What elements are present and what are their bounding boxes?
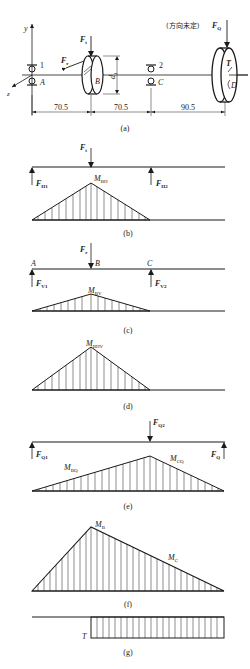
caption-e: (e) (124, 502, 133, 511)
caption-c: (c) (124, 326, 133, 335)
svg-text:MB: MB (94, 520, 106, 530)
moment-diagram-mq (32, 456, 224, 491)
svg-text:FQ: FQ (211, 21, 221, 31)
point-a-label-c: A (30, 259, 36, 268)
pulley-d-icon (212, 48, 248, 102)
force-fq-note: (方向未定) (166, 21, 200, 30)
gear-b-icon (82, 56, 103, 94)
svg-text:Fr: Fr (79, 245, 88, 255)
moment-diagram-mbv (32, 294, 225, 311)
svg-text:FV2: FV2 (154, 279, 167, 289)
dimension-cd: 90.5 (181, 103, 195, 112)
caption-a: (a) (121, 124, 130, 133)
bearing-2-label: 2 (159, 61, 163, 70)
svg-text:FQ2: FQ2 (152, 418, 165, 428)
force-fr-arrow (66, 61, 84, 68)
svg-text:FH1: FH1 (35, 179, 48, 189)
point-d-label: D (230, 81, 237, 90)
caption-d: (d) (123, 402, 133, 411)
svg-text:MBQ: MBQ (63, 463, 78, 473)
svg-text:MBV: MBV (87, 286, 102, 296)
panel-a-shaft-layout: y z 1 A B Ft Fr (6, 20, 248, 133)
svg-text:FV1: FV1 (35, 279, 48, 289)
torque-t-label: T (82, 632, 87, 641)
caption-f: (f) (124, 600, 132, 609)
caption-g: (g) (123, 648, 133, 657)
svg-text:d1: d1 (108, 72, 118, 79)
svg-text:MCQ: MCQ (169, 454, 184, 464)
shaft-analysis-diagram: y z 1 A B Ft Fr (0, 0, 250, 669)
svg-text:Ft: Ft (79, 35, 87, 45)
panel-e-fq-moment: FQ2 FQ1 FQ MBQ MCQ (e) (32, 418, 225, 511)
point-b-label: B (95, 77, 100, 86)
dimension-bc: 70.5 (114, 103, 128, 112)
point-c-label: C (158, 78, 164, 87)
panel-c-vertical-plane: A B C Fr FV1 FV2 MBV (c) (30, 243, 225, 335)
bearing-1-label: 1 (40, 61, 44, 70)
y-axis-label: y (23, 24, 28, 33)
panel-f-total-moment: MB MC (f) (32, 520, 224, 609)
svg-text:FQ: FQ (210, 450, 220, 460)
panel-d-combined-moment: MBHV (d) (32, 339, 225, 411)
point-b-label-c: B (95, 259, 100, 268)
svg-text:Fr: Fr (60, 56, 69, 66)
svg-text:MBH: MBH (93, 174, 108, 184)
point-c-label-c: C (147, 259, 153, 268)
moment-diagram-total (32, 527, 224, 591)
svg-text:MC: MC (167, 553, 179, 563)
panel-g-torque: T (g) (32, 617, 224, 657)
svg-text:Ft: Ft (79, 143, 87, 153)
z-axis-label: z (6, 90, 10, 98)
point-a-label: A (39, 78, 45, 87)
panel-b-horizontal-plane: Ft FH1 FH2 MBH (b) (32, 143, 225, 238)
torque-diagram (32, 617, 224, 638)
dimension-ab: 70.5 (54, 103, 68, 112)
caption-b: (b) (123, 229, 133, 238)
moment-diagram-mbhv (32, 347, 225, 390)
svg-text:FQ1: FQ1 (35, 450, 48, 460)
moment-diagram-mbh (32, 183, 225, 220)
svg-text:FH2: FH2 (155, 179, 168, 189)
svg-text:MBHV: MBHV (85, 339, 104, 349)
